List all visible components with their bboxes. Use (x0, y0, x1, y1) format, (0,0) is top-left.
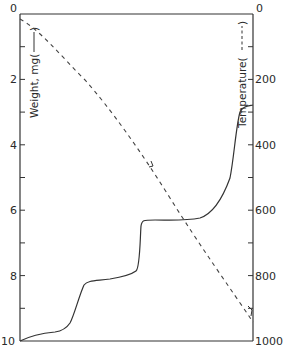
temperature-axis-title-text: Temperature( (236, 57, 248, 129)
temperature-axis-ticks (248, 47, 253, 309)
weight-tick-label: 8 (10, 270, 17, 283)
weight-tick-label: 2 (10, 73, 17, 86)
weight-tick-label: 10 (1, 335, 15, 347)
tga-chart: 0246810 02004006008001000 Weight, mg( ) … (0, 0, 286, 347)
weight-tick-label: 0 (10, 2, 17, 15)
temperature-axis-labels: 02004006008001000 (255, 2, 283, 347)
plot-frame (20, 14, 253, 341)
weight-curve (20, 105, 253, 341)
temperature-end-mark (248, 306, 252, 316)
temperature-axis-title: Temperature( ) (236, 21, 248, 129)
weight-axis-ticks (20, 47, 25, 309)
weight-axis-labels: 0246810 (1, 2, 17, 347)
temperature-tick-label: 0 (256, 2, 263, 15)
weight-tick-label: 6 (10, 204, 17, 217)
temperature-tick-label: 600 (255, 204, 276, 217)
temperature-curve (20, 19, 253, 322)
weight-axis-title: Weight, mg( ) (28, 27, 40, 118)
temperature-tick-label: 200 (255, 73, 276, 86)
weight-axis-title-text: Weight, mg( (28, 54, 40, 118)
temperature-arrow-mark (149, 161, 153, 167)
temperature-tick-label: 400 (255, 139, 276, 152)
svg-text:): ) (236, 21, 248, 25)
weight-tick-label: 4 (10, 139, 17, 152)
temperature-tick-label: 800 (255, 270, 276, 283)
temperature-tick-label: 1000 (255, 335, 283, 347)
